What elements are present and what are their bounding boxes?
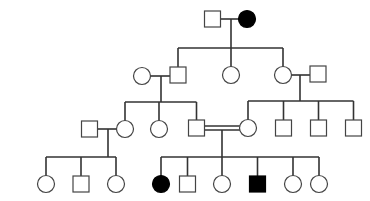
unaffected-male-iv-2	[73, 176, 89, 192]
unaffected-female-iii-3	[151, 121, 168, 138]
unaffected-female-ii-1	[134, 68, 151, 85]
unaffected-female-ii-3	[223, 67, 240, 84]
pedigree-chart	[0, 0, 370, 201]
unaffected-female-iv-8	[285, 176, 302, 193]
affected-female-i-2	[239, 11, 256, 28]
unaffected-male-iii-6	[276, 120, 292, 136]
unaffected-male-ii-2	[170, 67, 186, 83]
unaffected-female-iv-9	[311, 176, 328, 193]
unaffected-female-iii-5	[240, 120, 257, 137]
unaffected-male-i-1	[205, 11, 221, 27]
unaffected-female-iv-3	[108, 176, 125, 193]
unaffected-female-iii-2	[117, 121, 134, 138]
unaffected-male-iv-5	[180, 176, 196, 192]
unaffected-female-iv-1	[38, 176, 55, 193]
unaffected-male-iii-8	[346, 120, 362, 136]
unaffected-male-iii-1	[82, 121, 98, 137]
unaffected-male-ii-5	[310, 66, 326, 82]
affected-female-iv-4	[153, 176, 170, 193]
unaffected-male-iii-7	[311, 120, 327, 136]
unaffected-female-iv-6	[214, 176, 231, 193]
unaffected-male-iii-4	[189, 120, 205, 136]
pedigree-lines	[46, 19, 354, 176]
unaffected-female-ii-4	[275, 67, 292, 84]
affected-male-iv-7	[250, 176, 266, 192]
